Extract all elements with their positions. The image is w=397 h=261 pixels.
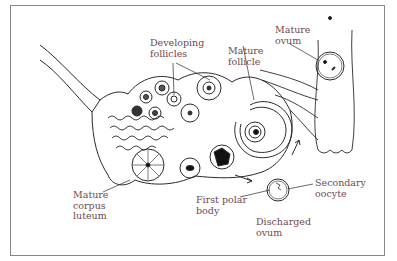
- mature-follicle: [235, 102, 292, 158]
- label-discharged-ovum: Discharged ovum: [256, 217, 311, 238]
- developing-follicles: [132, 76, 221, 122]
- blood-vessels: [108, 116, 174, 150]
- label-developing-follicles: Developing follicles: [150, 38, 204, 59]
- corpus-luteum: [132, 149, 200, 181]
- discharged-ovum: [267, 179, 289, 201]
- label-mature-corpus-luteum: Mature corpus luteum: [73, 190, 109, 222]
- label-mature-ovum: Mature ovum: [275, 25, 311, 46]
- fallopian-tube-fimbriae: [260, 30, 354, 153]
- ruptured-follicle: [210, 145, 234, 169]
- ovarian-ligament: [40, 45, 100, 112]
- label-mature-follicle: Mature follicle: [228, 46, 264, 67]
- label-first-polar-body: First polar body: [196, 195, 247, 216]
- mature-ovum: [316, 17, 344, 81]
- label-secondary-oocyte: Secondary oocyte: [315, 178, 366, 199]
